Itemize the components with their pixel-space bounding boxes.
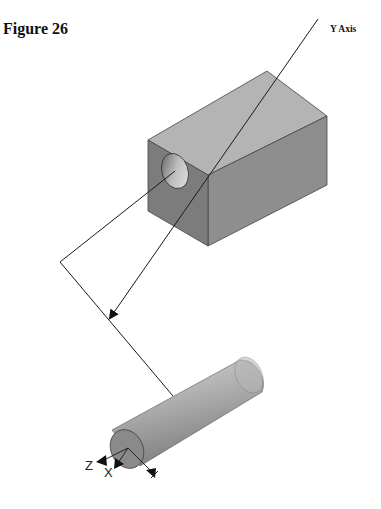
rectangular-block [148, 71, 327, 246]
cylinder [104, 352, 269, 474]
triad-y-arrow-icon [146, 468, 156, 478]
triad-x-label: X [104, 465, 113, 480]
triad-z-label: Z [85, 458, 93, 473]
diagram-canvas: Z X [0, 0, 381, 509]
